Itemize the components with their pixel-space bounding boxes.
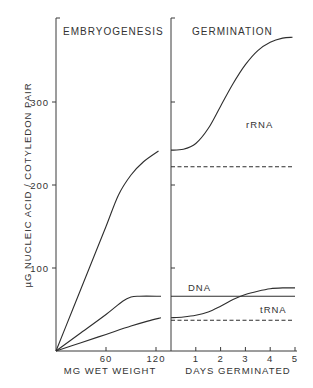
embryo-rrna-embryo-line <box>56 151 159 351</box>
embryo-dna-embryo-line <box>56 296 161 351</box>
right-x-tick-label: 1 <box>193 353 199 364</box>
left-x-tick-label: 120 <box>147 353 166 364</box>
dna-label: DNA <box>188 282 211 293</box>
right-x-tick-label: 3 <box>242 353 248 364</box>
germination-title: GERMINATION <box>192 26 273 37</box>
right-x-tick-label: 5 <box>292 353 298 364</box>
right-x-axis-label: DAYS GERMINATED <box>185 365 290 376</box>
y-axis-label: µG NUCLEIC ACID / COTYLEDON PAIR <box>22 82 33 287</box>
left-x-axis-label: MG WET WEIGHT <box>64 365 157 376</box>
left-x-tick-label: 60 <box>100 353 113 364</box>
embryo-trna-embryo-line <box>56 318 161 351</box>
embryogenesis-title: EMBRYOGENESIS <box>63 26 164 37</box>
right-x-tick-label: 2 <box>217 353 223 364</box>
nucleic-acid-chart: 1002003006012012345 EMBRYOGENESIS GERMIN… <box>0 0 313 388</box>
rrna-label: rRNA <box>246 119 273 130</box>
germination-rrna-line <box>171 37 293 150</box>
trna-label: tRNA <box>260 304 287 315</box>
right-x-tick-label: 4 <box>267 353 273 364</box>
